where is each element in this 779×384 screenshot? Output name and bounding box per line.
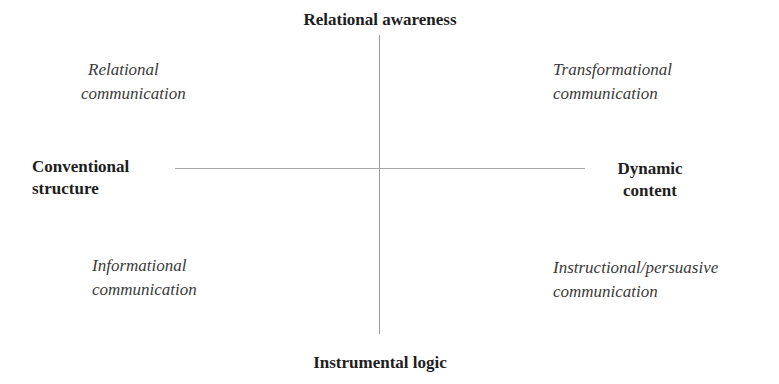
- quadrant-bottom-left-line1: Informational: [92, 254, 197, 278]
- axis-label-right-line1: Dynamic: [600, 158, 700, 180]
- horizontal-axis-line: [175, 168, 585, 169]
- quadrant-top-left: Relational communication: [88, 58, 186, 106]
- quadrant-top-right: Transformational communication: [553, 58, 672, 106]
- quadrant-bottom-right-line1: Instructional/persuasive: [553, 256, 718, 280]
- quadrant-top-right-line2: communication: [553, 82, 672, 106]
- quadrant-bottom-left: Informational communication: [92, 254, 197, 302]
- axis-label-left-line2: structure: [32, 178, 129, 200]
- vertical-axis-line: [379, 35, 380, 334]
- axis-label-top: Relational awareness: [280, 9, 480, 31]
- quadrant-top-left-line2: communication: [81, 82, 186, 106]
- axis-label-left: Conventional structure: [32, 156, 129, 200]
- quadrant-top-left-line1: Relational: [88, 58, 186, 82]
- axis-label-right-line2: content: [600, 180, 700, 202]
- quadrant-bottom-right: Instructional/persuasive communication: [553, 256, 718, 304]
- quadrant-bottom-right-line2: communication: [553, 280, 718, 304]
- quadrant-diagram: Relational awareness Instrumental logic …: [0, 0, 779, 384]
- quadrant-bottom-left-line2: communication: [92, 278, 197, 302]
- axis-label-bottom: Instrumental logic: [280, 352, 480, 374]
- axis-label-right: Dynamic content: [600, 158, 700, 202]
- axis-label-left-line1: Conventional: [32, 156, 129, 178]
- quadrant-top-right-line1: Transformational: [553, 58, 672, 82]
